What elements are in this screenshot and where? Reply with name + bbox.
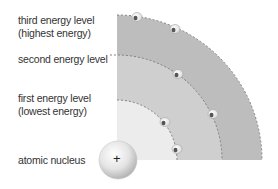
first-level-label-line2: (lowest energy) <box>18 105 87 117</box>
third-level-label-line1: third energy level <box>18 14 94 26</box>
first-level-label-line1: first energy level <box>18 92 91 104</box>
electron-icon <box>160 118 170 127</box>
third-level-label-line2: (highest energy) <box>18 27 91 39</box>
second-level-label: second energy level <box>18 53 108 65</box>
electron-icon <box>170 25 180 34</box>
electron-icon <box>173 70 183 79</box>
nucleus-label: atomic nucleus <box>18 154 85 166</box>
electron-icon <box>132 13 142 22</box>
electron-icon <box>172 145 182 154</box>
positive-charge-sign: + <box>113 153 120 165</box>
electron-icon <box>208 110 218 119</box>
